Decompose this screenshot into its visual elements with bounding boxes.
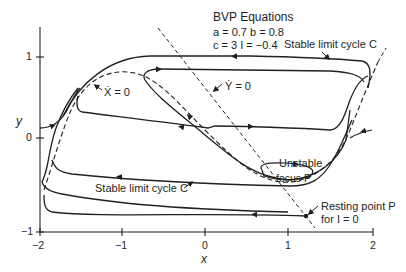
x-tick-2: 2 xyxy=(370,240,376,251)
resting-point-label-2: for I = 0 xyxy=(321,213,359,225)
unstable-focus-label-2: focus P xyxy=(276,172,311,184)
resting-point-marker xyxy=(304,214,309,219)
unstable-focus-label-1: Unstable xyxy=(279,157,322,169)
limit-cycle-top-label: Stable limit cycle C xyxy=(284,38,377,50)
trajectory-mid-left xyxy=(77,76,368,130)
limit-cycle-top-pointer xyxy=(322,52,328,58)
ydot-pointer xyxy=(215,84,222,90)
x-tick-neg1: −1 xyxy=(115,240,127,251)
x-axis-label: x xyxy=(201,252,207,266)
y-tick-1: 1 xyxy=(26,51,32,62)
trajectory-inflow-right xyxy=(350,130,372,138)
params-line-2: c = 3 I = −0.4 xyxy=(213,39,278,51)
resting-point-label-1: Resting point P xyxy=(321,200,396,212)
y-tick-0: 0 xyxy=(26,132,32,143)
chart-title: BVP Equations xyxy=(213,11,294,23)
y-axis-label: y xyxy=(16,114,22,128)
x-tick-neg2: −2 xyxy=(32,240,44,251)
x-tick-1: 1 xyxy=(285,240,291,251)
x-tick-0: 0 xyxy=(202,240,208,251)
xdot-pointer xyxy=(96,86,102,90)
resting-point-pointer xyxy=(310,206,318,213)
xdot-nullcline-label: Ẋ = 0 xyxy=(104,86,130,98)
limit-cycle-bottom-label: Stable limit cycle C xyxy=(95,182,188,194)
y-tick-neg1: −1 xyxy=(21,226,33,237)
ydot-nullcline-label: Ẏ = 0 xyxy=(225,80,251,92)
xdot-nullcline xyxy=(44,62,378,190)
params-line-1: a = 0.7 b = 0.8 xyxy=(213,26,284,38)
